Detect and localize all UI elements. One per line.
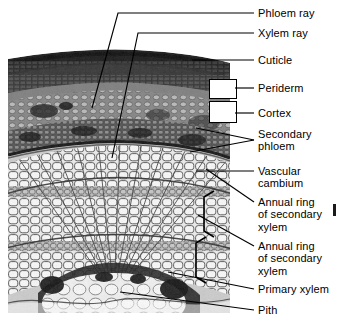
label-secondary-phloem: Secondary phloem <box>258 128 312 153</box>
label-pith: Pith <box>258 304 277 316</box>
label-primary-xylem: Primary xylem <box>258 283 329 295</box>
label-cortex: Cortex <box>258 107 291 119</box>
cortex-bracket-box <box>209 101 237 123</box>
label-xylem-ray: Xylem ray <box>258 27 308 39</box>
label-vascular-cambium: Vascular cambium <box>258 165 303 190</box>
stem-cross-section-micrograph <box>8 45 230 313</box>
edge-artifact <box>333 204 336 216</box>
label-cuticle: Cuticle <box>258 54 292 66</box>
label-annual-ring-outer: Annual ring of secondary xylem <box>258 196 322 233</box>
label-annual-ring-inner: Annual ring of secondary xylem <box>258 240 322 277</box>
figure-panel: Phloem ray Xylem ray Cuticle Periderm Co… <box>0 0 340 326</box>
label-periderm: Periderm <box>258 82 303 94</box>
label-phloem-ray: Phloem ray <box>258 7 315 19</box>
periderm-bracket-box <box>209 79 237 99</box>
